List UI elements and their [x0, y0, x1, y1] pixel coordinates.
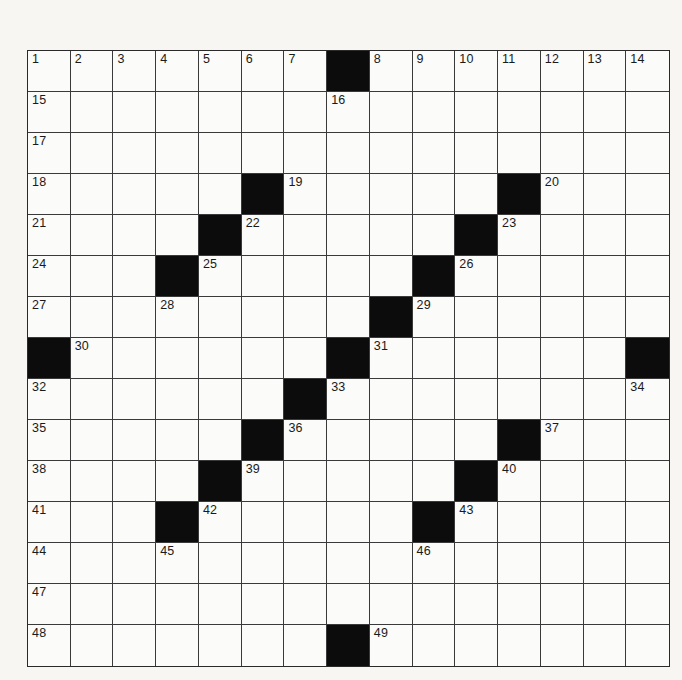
grid-cell[interactable]: 10: [455, 51, 498, 92]
grid-cell[interactable]: 39: [242, 461, 285, 502]
grid-cell[interactable]: [455, 174, 498, 215]
grid-cell[interactable]: 36: [284, 420, 327, 461]
grid-cell[interactable]: [156, 133, 199, 174]
grid-cell[interactable]: [242, 92, 285, 133]
grid-cell[interactable]: [71, 543, 114, 584]
grid-cell[interactable]: [113, 420, 156, 461]
grid-cell[interactable]: [242, 256, 285, 297]
grid-cell[interactable]: [455, 625, 498, 666]
grid-cell[interactable]: 31: [370, 338, 413, 379]
grid-cell[interactable]: [71, 379, 114, 420]
grid-cell[interactable]: 6: [242, 51, 285, 92]
grid-cell[interactable]: [199, 379, 242, 420]
grid-cell[interactable]: [71, 461, 114, 502]
grid-cell[interactable]: 43: [455, 502, 498, 543]
grid-cell[interactable]: [455, 92, 498, 133]
grid-cell[interactable]: [541, 625, 584, 666]
grid-cell[interactable]: [199, 297, 242, 338]
grid-cell[interactable]: [327, 215, 370, 256]
grid-cell[interactable]: 23: [498, 215, 541, 256]
grid-cell[interactable]: [626, 543, 669, 584]
grid-cell[interactable]: [541, 502, 584, 543]
grid-cell[interactable]: [113, 92, 156, 133]
grid-cell[interactable]: [370, 502, 413, 543]
grid-cell[interactable]: [626, 174, 669, 215]
grid-cell[interactable]: [71, 215, 114, 256]
grid-cell[interactable]: [584, 461, 627, 502]
grid-cell[interactable]: [327, 133, 370, 174]
grid-cell[interactable]: [584, 584, 627, 625]
grid-cell[interactable]: [413, 133, 456, 174]
grid-cell[interactable]: 11: [498, 51, 541, 92]
grid-cell[interactable]: [455, 133, 498, 174]
grid-cell[interactable]: [370, 256, 413, 297]
grid-cell[interactable]: [327, 297, 370, 338]
grid-cell[interactable]: [541, 133, 584, 174]
grid-cell[interactable]: 29: [413, 297, 456, 338]
grid-cell[interactable]: [327, 174, 370, 215]
grid-cell[interactable]: [113, 297, 156, 338]
grid-cell[interactable]: [242, 543, 285, 584]
grid-cell[interactable]: [327, 502, 370, 543]
grid-cell[interactable]: [284, 625, 327, 666]
grid-cell[interactable]: [498, 584, 541, 625]
grid-cell[interactable]: [413, 584, 456, 625]
grid-cell[interactable]: [584, 92, 627, 133]
grid-cell[interactable]: [284, 297, 327, 338]
grid-cell[interactable]: 19: [284, 174, 327, 215]
grid-cell[interactable]: [156, 379, 199, 420]
grid-cell[interactable]: 14: [626, 51, 669, 92]
grid-cell[interactable]: [626, 502, 669, 543]
grid-cell[interactable]: 15: [28, 92, 71, 133]
grid-cell[interactable]: [413, 338, 456, 379]
grid-cell[interactable]: [455, 420, 498, 461]
grid-cell[interactable]: [71, 584, 114, 625]
grid-cell[interactable]: [584, 379, 627, 420]
grid-cell[interactable]: [370, 379, 413, 420]
grid-cell[interactable]: [541, 215, 584, 256]
grid-cell[interactable]: [199, 338, 242, 379]
grid-cell[interactable]: 47: [28, 584, 71, 625]
grid-cell[interactable]: [327, 584, 370, 625]
grid-cell[interactable]: [327, 420, 370, 461]
grid-cell[interactable]: [541, 584, 584, 625]
grid-cell[interactable]: [370, 461, 413, 502]
grid-cell[interactable]: 40: [498, 461, 541, 502]
grid-cell[interactable]: 26: [455, 256, 498, 297]
grid-cell[interactable]: [498, 256, 541, 297]
grid-cell[interactable]: [370, 420, 413, 461]
grid-cell[interactable]: [584, 174, 627, 215]
grid-cell[interactable]: [541, 461, 584, 502]
grid-cell[interactable]: [584, 420, 627, 461]
grid-cell[interactable]: [541, 256, 584, 297]
grid-cell[interactable]: [626, 256, 669, 297]
grid-cell[interactable]: [284, 92, 327, 133]
grid-cell[interactable]: [199, 174, 242, 215]
grid-cell[interactable]: [584, 133, 627, 174]
grid-cell[interactable]: 1: [28, 51, 71, 92]
grid-cell[interactable]: [113, 215, 156, 256]
grid-cell[interactable]: [455, 297, 498, 338]
grid-cell[interactable]: [626, 215, 669, 256]
grid-cell[interactable]: [242, 297, 285, 338]
grid-cell[interactable]: [327, 256, 370, 297]
grid-cell[interactable]: [242, 502, 285, 543]
grid-cell[interactable]: [626, 92, 669, 133]
grid-cell[interactable]: 49: [370, 625, 413, 666]
grid-cell[interactable]: [113, 461, 156, 502]
grid-cell[interactable]: [113, 133, 156, 174]
grid-cell[interactable]: [242, 379, 285, 420]
grid-cell[interactable]: [413, 92, 456, 133]
grid-cell[interactable]: [113, 584, 156, 625]
grid-cell[interactable]: [413, 174, 456, 215]
grid-cell[interactable]: 7: [284, 51, 327, 92]
grid-cell[interactable]: [413, 625, 456, 666]
grid-cell[interactable]: 44: [28, 543, 71, 584]
grid-cell[interactable]: [156, 174, 199, 215]
grid-cell[interactable]: [584, 256, 627, 297]
grid-cell[interactable]: 33: [327, 379, 370, 420]
grid-cell[interactable]: 12: [541, 51, 584, 92]
grid-cell[interactable]: 5: [199, 51, 242, 92]
grid-cell[interactable]: [327, 543, 370, 584]
grid-cell[interactable]: [498, 625, 541, 666]
